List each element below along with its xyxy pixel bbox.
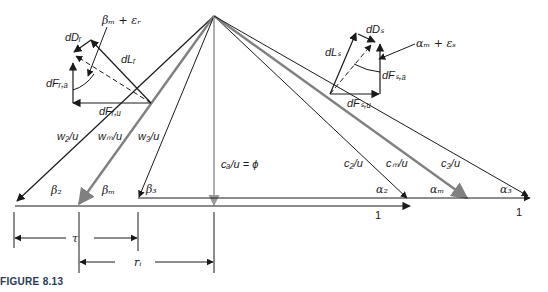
tau-label: τ — [72, 232, 79, 245]
rotor-force-diagram — [73, 27, 151, 103]
figure-caption: FIGURE 8.13 — [0, 276, 63, 287]
stator-angle-leader — [379, 44, 415, 59]
ca-label: cₐ/u = ϕ — [221, 158, 258, 170]
stator-dL-arrow — [330, 33, 356, 94]
alpham-label: αₘ — [430, 183, 444, 196]
stator-dD-arrow — [358, 34, 375, 42]
rotor-dL-label: dLᵣ — [121, 53, 136, 65]
rotor-dFu-label: dFᵣ,ᵤ — [99, 105, 121, 117]
stator-unit-label: 1 — [516, 206, 522, 218]
ri-label: rᵢ — [134, 256, 141, 269]
rotor-angle-arc — [73, 74, 94, 90]
wm-label: wₘ/u — [98, 130, 122, 142]
w2-label: w₂/u — [57, 130, 78, 142]
beta2-label: β₂ — [50, 184, 62, 197]
rotor-angle-leader — [88, 27, 107, 76]
c3-label: c₃/u — [441, 157, 460, 169]
stator-dFa-label: dFₛ,ₐ — [382, 69, 406, 81]
betam-label: βₘ — [101, 184, 115, 197]
dimension-lines — [14, 212, 214, 273]
cm-label: cₘ/u — [386, 157, 408, 169]
rotor-angle-label: βₘ + εᵣ — [101, 14, 141, 27]
velocity-triangle-diagram: w₂/u wₘ/u w₃/u cₐ/u = ϕ c₂/u cₘ/u c₃/u β… — [0, 0, 548, 292]
stator-angle-arc — [354, 64, 380, 72]
rotor-dD-label: dDᵣ — [65, 31, 82, 43]
stator-dL-label: dLₛ — [325, 46, 342, 58]
w3-label: w₃/u — [138, 130, 159, 142]
stator-dD-label: dDₛ — [366, 23, 385, 35]
stator-dFu-label: dFₛ,ᵤ — [347, 97, 371, 109]
c2-vector — [214, 16, 407, 198]
alpha3-label: α₃ — [500, 183, 512, 196]
alpha2-label: α₂ — [376, 183, 388, 196]
stator-force-diagram — [330, 33, 415, 94]
c2-label: c₂/u — [344, 157, 363, 169]
rotor-unit-label: 1 — [375, 209, 381, 221]
beta3-label: β₃ — [145, 183, 157, 196]
absolute-velocity-vectors — [214, 16, 528, 198]
stator-angle-label: αₘ + εₛ — [416, 37, 456, 50]
rotor-dFa-label: dFᵣ,ₐ — [46, 77, 68, 89]
c3-vector — [214, 16, 528, 196]
